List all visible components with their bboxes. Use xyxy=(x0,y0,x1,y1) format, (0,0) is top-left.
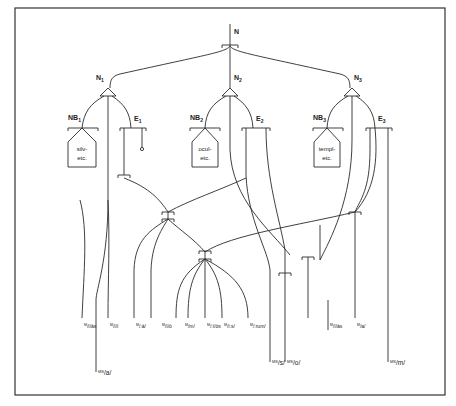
edge-root-n3 xyxy=(230,46,350,88)
svg-text:etc.: etc. xyxy=(200,155,210,161)
edge-n1-e1 xyxy=(112,96,131,128)
morphology-tree-diagram: N N1 N2 N3 NB1 silv- etc. E1 NB2 ocul- e… xyxy=(0,0,456,406)
node-label-n3: N3 xyxy=(354,74,362,83)
node-label-nb2: NB2 xyxy=(190,114,203,123)
node-label-e1: E1 xyxy=(134,115,142,124)
svg-text:etc.: etc. xyxy=(322,155,332,161)
leaf-upper-6: M/ī:s/ xyxy=(224,323,236,329)
leaf-lower-2: MS/o/ xyxy=(287,359,300,366)
node-label-nb3: NB3 xyxy=(313,114,326,123)
leaf-upper-1: M/ī/ī xyxy=(110,323,119,329)
node-label-n1: N1 xyxy=(96,74,104,83)
leaf-upper-7: M/:rum/ xyxy=(250,323,266,329)
edge-to-ms-a xyxy=(96,200,108,372)
leaf-upper-8: M/ī/ās xyxy=(330,323,343,329)
leaf-lower-3: MS/m/ xyxy=(390,359,405,366)
leaf-upper-0: M/ī/ās xyxy=(84,323,97,329)
svg-text:ocul-: ocul- xyxy=(198,146,211,152)
leaves-upper: M/ī/ās M/ī/ī M/:ā/ M/ī/ō M/m/ M/:ī/ōs M/… xyxy=(84,323,366,329)
leaf-upper-9: M/a/ xyxy=(357,323,366,329)
node-label-n2: N2 xyxy=(234,74,242,83)
edge-n1-nb1 xyxy=(82,96,104,128)
edge-root-n1 xyxy=(110,46,230,88)
n1-triangle xyxy=(100,88,116,96)
node-label-e2: E2 xyxy=(256,115,264,124)
n3-triangle xyxy=(344,88,360,96)
svg-text:etc.: etc. xyxy=(77,155,87,161)
leaf-upper-4: M/m/ xyxy=(185,323,195,329)
svg-text:templ-: templ- xyxy=(319,146,336,152)
leaf-upper-2: M/:ā/ xyxy=(136,323,146,329)
leaf-upper-5: M/:ī/ōs xyxy=(207,323,221,329)
e1-null-marker xyxy=(140,147,143,150)
leaves-lower: MS/a/ MS/s/ MS/o/ MS/m/ xyxy=(98,359,405,376)
node-label-e3: E3 xyxy=(378,115,386,124)
leaf-upper-3: M/ī/ō xyxy=(162,323,172,329)
node-label-root: N xyxy=(234,28,239,35)
leaf-lower-0: MS/a/ xyxy=(98,369,111,376)
leaf-lower-1: MS/s/ xyxy=(272,359,285,366)
svg-text:silv-: silv- xyxy=(77,146,88,152)
n2-triangle xyxy=(222,88,238,96)
node-label-nb1: NB1 xyxy=(68,114,81,123)
